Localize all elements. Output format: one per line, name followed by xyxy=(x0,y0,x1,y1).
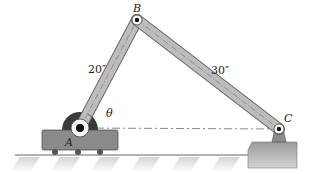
label-length-bc: 30″ xyxy=(211,65,229,76)
mechanism-diagram xyxy=(0,0,313,174)
pin-a xyxy=(71,119,89,137)
reference-centerline xyxy=(80,128,279,129)
link-bc xyxy=(137,20,279,129)
label-angle-theta: θ xyxy=(106,108,113,119)
ground xyxy=(10,155,250,172)
label-point-b: B xyxy=(133,3,141,14)
label-point-a: A xyxy=(65,137,73,148)
pin-c xyxy=(274,124,284,134)
label-point-c: C xyxy=(284,113,292,124)
label-length-ab: 20″ xyxy=(88,64,106,75)
pin-b xyxy=(132,15,142,25)
support-c xyxy=(248,128,297,168)
